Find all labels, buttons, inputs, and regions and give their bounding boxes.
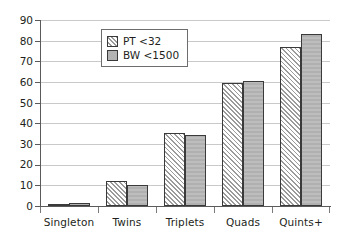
y-axis-tick-label: 80 [3, 36, 33, 47]
y-axis-labels: 90 80 70 60 50 40 30 20 10 0 [0, 0, 33, 248]
legend-item-bw: BW <1500 [107, 48, 179, 62]
bar-bw-quads [243, 81, 264, 206]
bar-bw-quints [301, 34, 322, 206]
y-axis-tick-label: 40 [3, 118, 33, 129]
bar-pt-singleton [48, 204, 69, 206]
bar-bw-twins [127, 185, 148, 206]
legend-swatch-solid-icon [107, 50, 118, 61]
legend-label-bw: BW <1500 [123, 49, 179, 61]
legend-swatch-hatched-icon [107, 36, 118, 47]
chart-legend: PT <32 BW <1500 [101, 29, 188, 67]
x-axis-labels: Singleton Twins Triplets Quads Quints+ [40, 216, 330, 228]
bar-pt-twins [106, 181, 127, 206]
x-axis-category-label: Singleton [40, 216, 98, 228]
y-axis-tick-label: 90 [3, 15, 33, 26]
bar-pt-triplets [164, 133, 185, 206]
bar-group-singleton [40, 20, 98, 206]
x-axis-category-label: Quads [214, 216, 272, 228]
bar-group-quads [214, 20, 272, 206]
y-axis-tick-label: 60 [3, 77, 33, 88]
x-axis-ticks [40, 207, 330, 213]
bar-chart: 90 80 70 60 50 40 30 20 10 0 [0, 0, 344, 248]
legend-item-pt: PT <32 [107, 34, 179, 48]
x-axis-category-label: Quints+ [272, 216, 330, 228]
x-axis-category-label: Twins [98, 216, 156, 228]
bar-bw-triplets [185, 135, 206, 206]
legend-label-pt: PT <32 [123, 35, 161, 47]
y-axis-tick-label: 0 [3, 201, 33, 212]
y-axis-tick-label: 70 [3, 56, 33, 67]
bar-bw-singleton [69, 203, 90, 206]
y-axis-tick-label: 20 [3, 159, 33, 170]
y-axis-tick-label: 10 [3, 180, 33, 191]
x-axis-category-label: Triplets [156, 216, 214, 228]
y-axis-tick-label: 30 [3, 139, 33, 150]
y-axis-tick-label: 50 [3, 98, 33, 109]
bar-pt-quints [280, 47, 301, 206]
bar-group-quints [272, 20, 330, 206]
bar-pt-quads [222, 83, 243, 206]
